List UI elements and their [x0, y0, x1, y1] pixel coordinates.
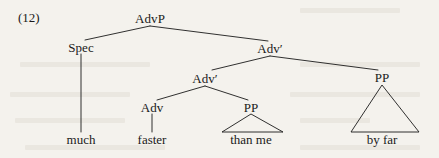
advp-to-adv-bar-upper [150, 26, 268, 41]
syntax-tree-figure: (12) AdvP Spec Adv′ Adv′ Adv PP PP much … [0, 0, 439, 158]
node-adv-head: Adv [141, 101, 164, 114]
node-spec: Spec [68, 41, 94, 54]
terminal-by-far: by far [367, 133, 398, 146]
node-adv-bar-lower: Adv′ [192, 72, 218, 85]
terminal-than-me: than me [230, 133, 272, 146]
adv-bar-lower-to-pp-left [205, 86, 248, 100]
advp-to-spec [85, 26, 150, 40]
adv-bar-upper-to-adv-bar-lower [212, 56, 270, 70]
node-advp: AdvP [135, 12, 165, 25]
node-pp-left: PP [244, 101, 259, 114]
node-adv-bar-upper: Adv′ [257, 42, 283, 55]
node-pp-right: PP [375, 71, 390, 84]
adv-bar-upper-to-pp-right [270, 56, 378, 70]
adv-bar-lower-to-adv-head [157, 86, 205, 100]
terminal-much: much [67, 133, 96, 146]
pp-left-triangle [222, 114, 283, 132]
terminal-faster: faster [138, 133, 167, 146]
pp-right-triangle [351, 85, 419, 132]
